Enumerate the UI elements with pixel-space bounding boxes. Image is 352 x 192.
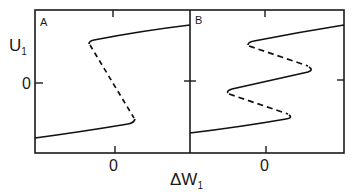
b-unstable-branch-1 — [249, 46, 308, 66]
a-upper-branch — [89, 25, 190, 44]
y-axis-sub: 1 — [21, 46, 27, 57]
x-axis-sub: 1 — [197, 180, 203, 191]
panel-label-a: A — [40, 16, 48, 28]
panel-label-b: B — [195, 14, 202, 26]
y-axis-main: U — [9, 36, 21, 55]
x-axis-label: ΔW1 — [170, 170, 203, 191]
x-zero-label-a: 0 — [109, 157, 118, 174]
x-axis-main: ΔW — [170, 170, 197, 189]
b-top-branch — [248, 25, 344, 45]
figure: A B U1 0 0 0 ΔW1 — [0, 0, 352, 192]
y-axis-label: U1 — [9, 36, 27, 57]
b-middle-branch — [228, 67, 312, 93]
b-unstable-branch-2 — [229, 94, 288, 114]
a-lower-branch — [35, 119, 135, 138]
b-bottom-branch — [190, 115, 290, 133]
panel-a-curves — [35, 25, 190, 138]
y-zero-label: 0 — [22, 75, 31, 92]
x-zero-label-b: 0 — [260, 157, 269, 174]
panel-b-curves — [190, 25, 344, 133]
a-unstable-branch — [90, 45, 134, 118]
